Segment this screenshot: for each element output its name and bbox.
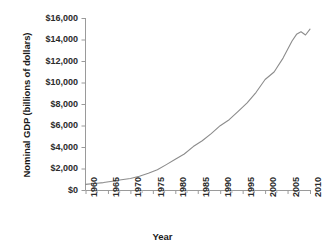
x-axis-tick-label: 1965 bbox=[112, 177, 121, 197]
x-axis-tick-label: 1960 bbox=[90, 177, 99, 197]
x-axis-tick-label: 1995 bbox=[247, 177, 256, 197]
x-axis-tick-labels: 1960196519701975198019851990199520002005… bbox=[0, 0, 325, 250]
x-axis-tick-label: 2000 bbox=[269, 177, 278, 197]
x-axis-tick-label: 1980 bbox=[179, 177, 188, 197]
x-axis-tick-label: 1990 bbox=[224, 177, 233, 197]
x-axis-tick-label: 2005 bbox=[292, 177, 301, 197]
x-axis-tick-label: 2010 bbox=[314, 177, 323, 197]
x-axis-title: Year bbox=[0, 231, 325, 242]
x-axis-tick-label: 1975 bbox=[157, 177, 166, 197]
x-axis-tick-label: 1985 bbox=[202, 177, 211, 197]
gdp-line-chart: Nominal GDP (billions of dollars) $0$2,0… bbox=[0, 0, 325, 250]
x-axis-tick-label: 1970 bbox=[134, 177, 143, 197]
